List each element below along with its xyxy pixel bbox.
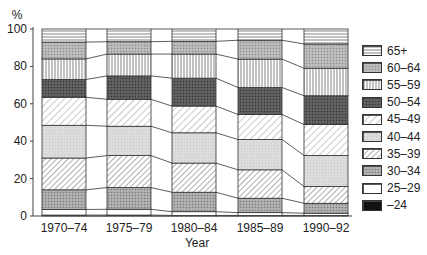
legend-swatch bbox=[362, 131, 382, 142]
x-tick-label: 1980–84 bbox=[171, 221, 218, 235]
segment-55–59 bbox=[172, 54, 216, 78]
segment-40–44 bbox=[107, 126, 151, 155]
segment-55–59 bbox=[304, 68, 348, 95]
segment-30–34 bbox=[238, 198, 282, 212]
segment-45–49 bbox=[304, 125, 348, 156]
segment-40–44 bbox=[304, 155, 348, 186]
legend-swatch bbox=[362, 183, 382, 194]
legend-label: –24 bbox=[387, 198, 407, 212]
bar-1970–74 bbox=[42, 29, 86, 216]
segment-50–54 bbox=[107, 76, 151, 99]
segment-35–39 bbox=[42, 158, 86, 190]
segment-40–44 bbox=[42, 125, 86, 158]
segment-30–34 bbox=[42, 190, 86, 210]
legend-swatch bbox=[362, 114, 382, 125]
segment-60–64 bbox=[238, 40, 282, 59]
segment-65+ bbox=[107, 29, 151, 42]
segment-50–54 bbox=[304, 96, 348, 125]
segment-45–49 bbox=[238, 114, 282, 139]
segment-60–64 bbox=[107, 42, 151, 54]
legend-swatch bbox=[362, 200, 382, 211]
legend-item: 50–54 bbox=[362, 94, 420, 111]
segment-35–39 bbox=[107, 156, 151, 188]
y-axis-unit: % bbox=[12, 8, 23, 22]
legend-item: 65+ bbox=[362, 42, 420, 59]
segment-65+ bbox=[304, 29, 348, 44]
bar-1985–89 bbox=[238, 29, 282, 216]
legend-swatch bbox=[362, 79, 382, 90]
segment-35–39 bbox=[172, 163, 216, 192]
bar-1980–84 bbox=[172, 29, 216, 216]
legend: 65+60–6455–5950–5445–4940–4435–3930–3425… bbox=[362, 42, 420, 214]
segment-55–59 bbox=[238, 59, 282, 87]
segment-45–49 bbox=[107, 99, 151, 126]
legend-label: 50–54 bbox=[387, 95, 420, 109]
legend-label: 60–64 bbox=[387, 61, 420, 75]
segment-25–29 bbox=[172, 212, 216, 216]
segment-60–64 bbox=[42, 42, 86, 59]
segment-35–39 bbox=[304, 186, 348, 203]
segment-30–34 bbox=[172, 192, 216, 211]
legend-swatch bbox=[362, 148, 382, 159]
legend-label: 45–49 bbox=[387, 112, 420, 126]
plot-area bbox=[42, 29, 348, 216]
legend-item: 45–49 bbox=[362, 111, 420, 128]
segment-25–29 bbox=[42, 209, 86, 215]
legend-swatch bbox=[362, 45, 382, 56]
y-tick-label: 40 bbox=[14, 134, 28, 148]
segment-65+ bbox=[238, 29, 282, 40]
legend-item: –24 bbox=[362, 197, 420, 214]
segment-60–64 bbox=[172, 41, 216, 54]
segment-40–44 bbox=[238, 140, 282, 170]
x-tick-label: 1990–92 bbox=[303, 221, 350, 235]
segment-55–59 bbox=[107, 54, 151, 76]
segment-40–44 bbox=[172, 133, 216, 163]
segment-60–64 bbox=[304, 44, 348, 68]
legend-label: 55–59 bbox=[387, 78, 420, 92]
segment-25–29 bbox=[107, 209, 151, 215]
legend-label: 25–29 bbox=[387, 181, 420, 195]
segment-35–39 bbox=[238, 170, 282, 198]
segment-25–29 bbox=[238, 213, 282, 216]
legend-swatch bbox=[362, 97, 382, 108]
segment-50–54 bbox=[238, 88, 282, 115]
legend-swatch bbox=[362, 62, 382, 73]
segment-50–54 bbox=[42, 79, 86, 97]
y-tick-label: 100 bbox=[7, 22, 27, 36]
segment-55–59 bbox=[42, 59, 86, 80]
y-tick-label: 20 bbox=[14, 172, 28, 186]
bar-1990–92 bbox=[304, 29, 348, 216]
legend-swatch bbox=[362, 165, 382, 176]
y-tick-label: 80 bbox=[14, 59, 28, 73]
segment-45–49 bbox=[172, 106, 216, 133]
x-tick-label: 1975–79 bbox=[106, 221, 153, 235]
legend-item: 35–39 bbox=[362, 145, 420, 162]
segment-50–54 bbox=[172, 78, 216, 106]
legend-item: 40–44 bbox=[362, 128, 420, 145]
legend-label: 35–39 bbox=[387, 147, 420, 161]
segment-30–34 bbox=[304, 203, 348, 213]
segment-45–49 bbox=[42, 97, 86, 125]
legend-item: 55–59 bbox=[362, 76, 420, 93]
x-tick-label: 1970–74 bbox=[41, 221, 88, 235]
segment-65+ bbox=[42, 29, 86, 42]
legend-item: 60–64 bbox=[362, 59, 420, 76]
x-tick-label: 1985–89 bbox=[237, 221, 284, 235]
y-tick-label: 0 bbox=[20, 209, 27, 223]
x-axis-title: Year bbox=[185, 236, 209, 250]
legend-label: 40–44 bbox=[387, 130, 420, 144]
segment-30–34 bbox=[107, 188, 151, 210]
legend-item: 30–34 bbox=[362, 162, 420, 179]
segment-65+ bbox=[172, 29, 216, 41]
legend-label: 65+ bbox=[387, 44, 407, 58]
bar-1975–79 bbox=[107, 29, 151, 216]
legend-item: 25–29 bbox=[362, 180, 420, 197]
y-tick-label: 60 bbox=[14, 97, 28, 111]
legend-label: 30–34 bbox=[387, 164, 420, 178]
